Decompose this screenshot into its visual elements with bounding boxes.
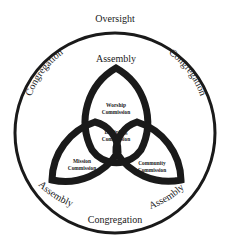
label-mission-1: Mission [73,158,91,164]
label-congregation-left: Congregation [23,46,65,97]
label-assembly-bottom-right: Assembly [147,181,186,210]
label-assembly-top: Assembly [96,53,136,64]
label-community-2: Commission [138,167,166,173]
label-community-1: Community [138,160,166,166]
label-worship-2: Commission [102,109,130,115]
label-discipling-2: Commission [102,136,130,142]
label-discipling-1: Discipling [104,129,127,135]
label-congregation-bottom: Congregation [88,214,142,225]
label-worship-1: Worship [106,102,126,108]
triquetra-diagram: Oversight Congregation Congregation Cong… [0,0,230,247]
label-oversight: Oversight [95,13,135,24]
label-congregation-right: Congregation [167,46,209,97]
label-mission-2: Commission [68,165,96,171]
